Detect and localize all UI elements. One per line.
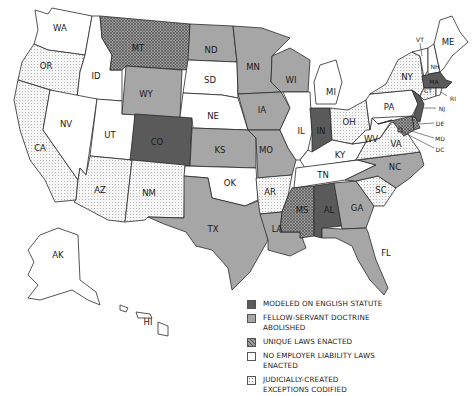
svg-text:VA: VA [390,139,401,149]
svg-text:OH: OH [342,117,355,127]
svg-text:VT: VT [416,36,424,43]
legend-item-unique-laws: UNIQUE LAWS ENACTED [247,337,472,347]
svg-text:MI: MI [326,87,336,97]
svg-text:IL: IL [297,126,305,136]
state-MI[interactable] [314,60,342,104]
legend-label: JUDICIALLY-CREATED EXCEPTIONS CODIFIED [263,375,383,395]
svg-text:CA: CA [34,143,46,153]
legend-item-judicial-exceptions: JUDICIALLY-CREATED EXCEPTIONS CODIFIED [247,375,472,395]
state-MT[interactable] [100,16,190,70]
state-FL[interactable] [322,228,388,295]
svg-text:ME: ME [442,37,455,47]
svg-text:NJ: NJ [439,105,445,113]
svg-text:PA: PA [384,102,395,112]
svg-text:MO: MO [259,145,273,155]
svg-text:WA: WA [53,23,67,33]
legend: MODELED ON ENGLISH STATUTE FELLOW-SERVAN… [247,299,472,396]
svg-text:LA: LA [272,224,283,234]
svg-text:NE: NE [207,111,219,121]
svg-text:ID: ID [91,71,101,81]
svg-text:OR: OR [40,61,53,71]
svg-text:MT: MT [132,43,145,53]
state-ND[interactable] [188,24,237,62]
legend-item-no-laws: NO EMPLOYER LIABILITY LAWS ENACTED [247,351,472,371]
svg-text:IA: IA [258,105,267,115]
legend-label: FELLOW-SERVANT DOCTRINE ABOLISHED [263,313,393,333]
svg-text:KY: KY [335,150,346,160]
legend-item-fellow-servant: FELLOW-SERVANT DOCTRINE ABOLISHED [247,313,472,333]
swatch-medium-gray-icon [247,314,256,323]
svg-text:DE: DE [436,120,445,127]
svg-text:CO: CO [151,137,164,147]
svg-text:HI: HI [144,317,153,327]
svg-text:SD: SD [204,75,216,85]
svg-text:WV: WV [364,134,378,144]
svg-text:AL: AL [324,205,335,215]
svg-text:AK: AK [52,250,64,260]
swatch-dotted-icon [247,376,256,385]
svg-text:TN: TN [316,170,329,180]
state-AK[interactable] [28,228,100,305]
svg-text:GA: GA [351,203,364,213]
svg-text:NH: NH [431,63,440,70]
svg-text:OK: OK [224,178,237,188]
svg-text:KS: KS [215,145,226,155]
svg-text:WY: WY [139,89,153,99]
svg-text:SC: SC [375,185,386,195]
svg-text:DC: DC [436,146,445,153]
svg-text:UT: UT [104,130,116,140]
swatch-white-icon [247,352,256,361]
swatch-dark-gray-icon [247,300,256,309]
swatch-crosshatch-icon [247,338,256,347]
state-WI[interactable] [271,48,310,92]
svg-text:MA: MA [429,78,439,85]
svg-text:MS: MS [296,205,309,215]
svg-text:CT: CT [424,87,432,94]
svg-text:NV: NV [60,119,72,129]
svg-text:AZ: AZ [94,185,106,195]
svg-text:AR: AR [264,187,276,197]
svg-text:MN: MN [246,62,260,72]
svg-text:ND: ND [205,45,218,55]
svg-text:WI: WI [286,75,297,85]
svg-text:IN: IN [317,126,326,136]
svg-text:RI: RI [450,95,456,102]
svg-text:NY: NY [401,72,413,82]
svg-text:NC: NC [389,162,401,172]
svg-text:FL: FL [381,248,391,258]
state-NY[interactable] [370,52,424,96]
svg-text:MD: MD [435,135,445,142]
svg-text:NM: NM [142,188,156,198]
svg-text:TX: TX [206,224,218,234]
legend-label: UNIQUE LAWS ENACTED [263,337,352,347]
legend-label: NO EMPLOYER LIABILITY LAWS ENACTED [263,351,388,371]
legend-item-english-statute: MODELED ON ENGLISH STATUTE [247,299,472,309]
legend-label: MODELED ON ENGLISH STATUTE [263,299,382,309]
